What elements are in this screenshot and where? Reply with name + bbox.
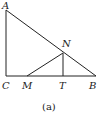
label-A: A bbox=[1, 0, 9, 11]
label-B: B bbox=[88, 80, 96, 91]
label-M: M bbox=[21, 80, 33, 91]
label-N: N bbox=[61, 38, 72, 49]
label-C: C bbox=[2, 80, 10, 91]
segment-AB bbox=[6, 10, 96, 76]
label-T: T bbox=[59, 80, 67, 91]
segment-MN bbox=[27, 53, 63, 76]
figure-caption: (a) bbox=[42, 101, 56, 112]
geometry-diagram: A N C M T B (a) bbox=[0, 0, 100, 114]
